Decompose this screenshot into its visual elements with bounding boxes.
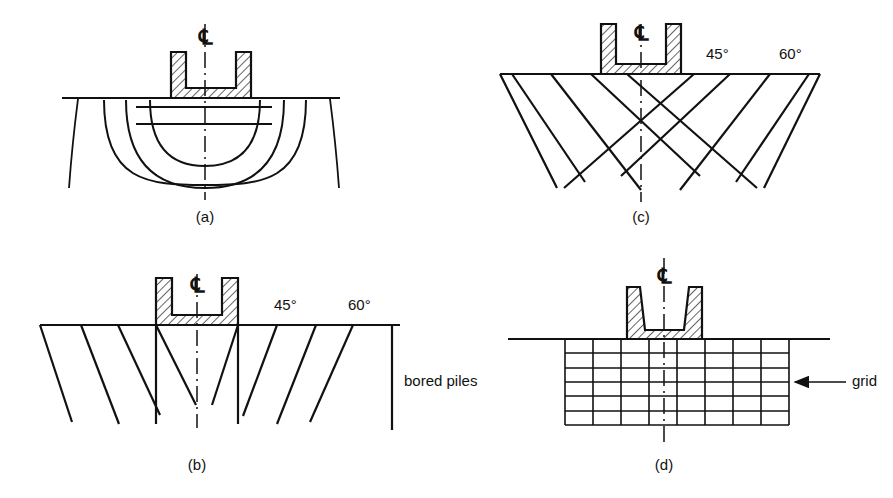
- panel-label-c: (c): [632, 208, 650, 225]
- angle-label-60-c: 60°: [779, 45, 802, 62]
- pile-b-l5: [156, 325, 196, 405]
- panel-a: ℄ (a): [62, 24, 340, 225]
- centreline-symbol-c: ℄: [634, 21, 649, 45]
- panel-label-b: (b): [188, 456, 206, 473]
- angle-label-45-c: 45°: [706, 45, 729, 62]
- pile-b-r3: [243, 325, 277, 416]
- pile-b-l2: [81, 325, 119, 424]
- ground-edge-left-a: [69, 99, 78, 188]
- pile-b-r1: [212, 325, 238, 405]
- panel-label-d: (d): [655, 456, 673, 473]
- centreline-symbol-d: ℄: [657, 264, 672, 288]
- pile-b-l3: [118, 325, 160, 415]
- pile-b-r5: [310, 325, 353, 422]
- footing-a: [171, 52, 251, 98]
- pile-b-r4: [277, 325, 316, 424]
- panel-label-a: (a): [196, 208, 214, 225]
- angle-label-45-b: 45°: [274, 296, 297, 313]
- pile-c-r4: [627, 74, 757, 188]
- pile-c-outer-left-1: [500, 74, 557, 188]
- ground-edge-right-a: [330, 99, 339, 188]
- bored-piles-label: bored piles: [404, 372, 477, 389]
- figure-foundation-pile-layouts: ℄ (a) 45° 60° ℄ (c): [0, 0, 893, 498]
- pile-c-r1: [512, 74, 585, 182]
- panel-c: 45° 60° ℄ (c): [500, 21, 820, 225]
- pile-b-l1: [40, 325, 72, 422]
- angle-label-60-b: 60°: [348, 296, 371, 313]
- pile-c-l1: [736, 74, 809, 182]
- pile-grid-d: [565, 339, 789, 425]
- centreline-symbol-a: ℄: [198, 25, 213, 49]
- pile-c-l4: [564, 74, 694, 188]
- pile-c-outer-right-1: [764, 74, 820, 188]
- grid-label: grid: [852, 372, 877, 389]
- centreline-symbol-b: ℄: [190, 273, 205, 297]
- panel-d: grid ℄ (d): [508, 258, 877, 473]
- panel-b: 45° 60° bored piles ℄ (b): [40, 273, 477, 473]
